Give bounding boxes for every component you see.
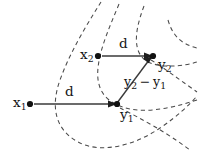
mapping-arrow-x1-y1	[34, 100, 117, 107]
label-x1: x1	[13, 96, 27, 110]
point-dot-x1	[27, 101, 33, 107]
flow-curve-4	[168, 20, 197, 48]
label-x2: x2	[80, 48, 94, 62]
label-y2: y2	[158, 58, 172, 72]
label-y1: y1	[120, 108, 134, 122]
point-dot-y2	[150, 53, 156, 59]
label-difference-vector: y2 − y1	[124, 76, 166, 89]
label-distance-lower: d	[65, 85, 74, 99]
math-diagram-figure: x1 x2 y1 y2 d d y2 − y1	[0, 0, 198, 164]
diagram-canvas	[0, 0, 198, 164]
point-dot-x2	[95, 53, 101, 59]
label-distance-upper: d	[119, 37, 128, 51]
